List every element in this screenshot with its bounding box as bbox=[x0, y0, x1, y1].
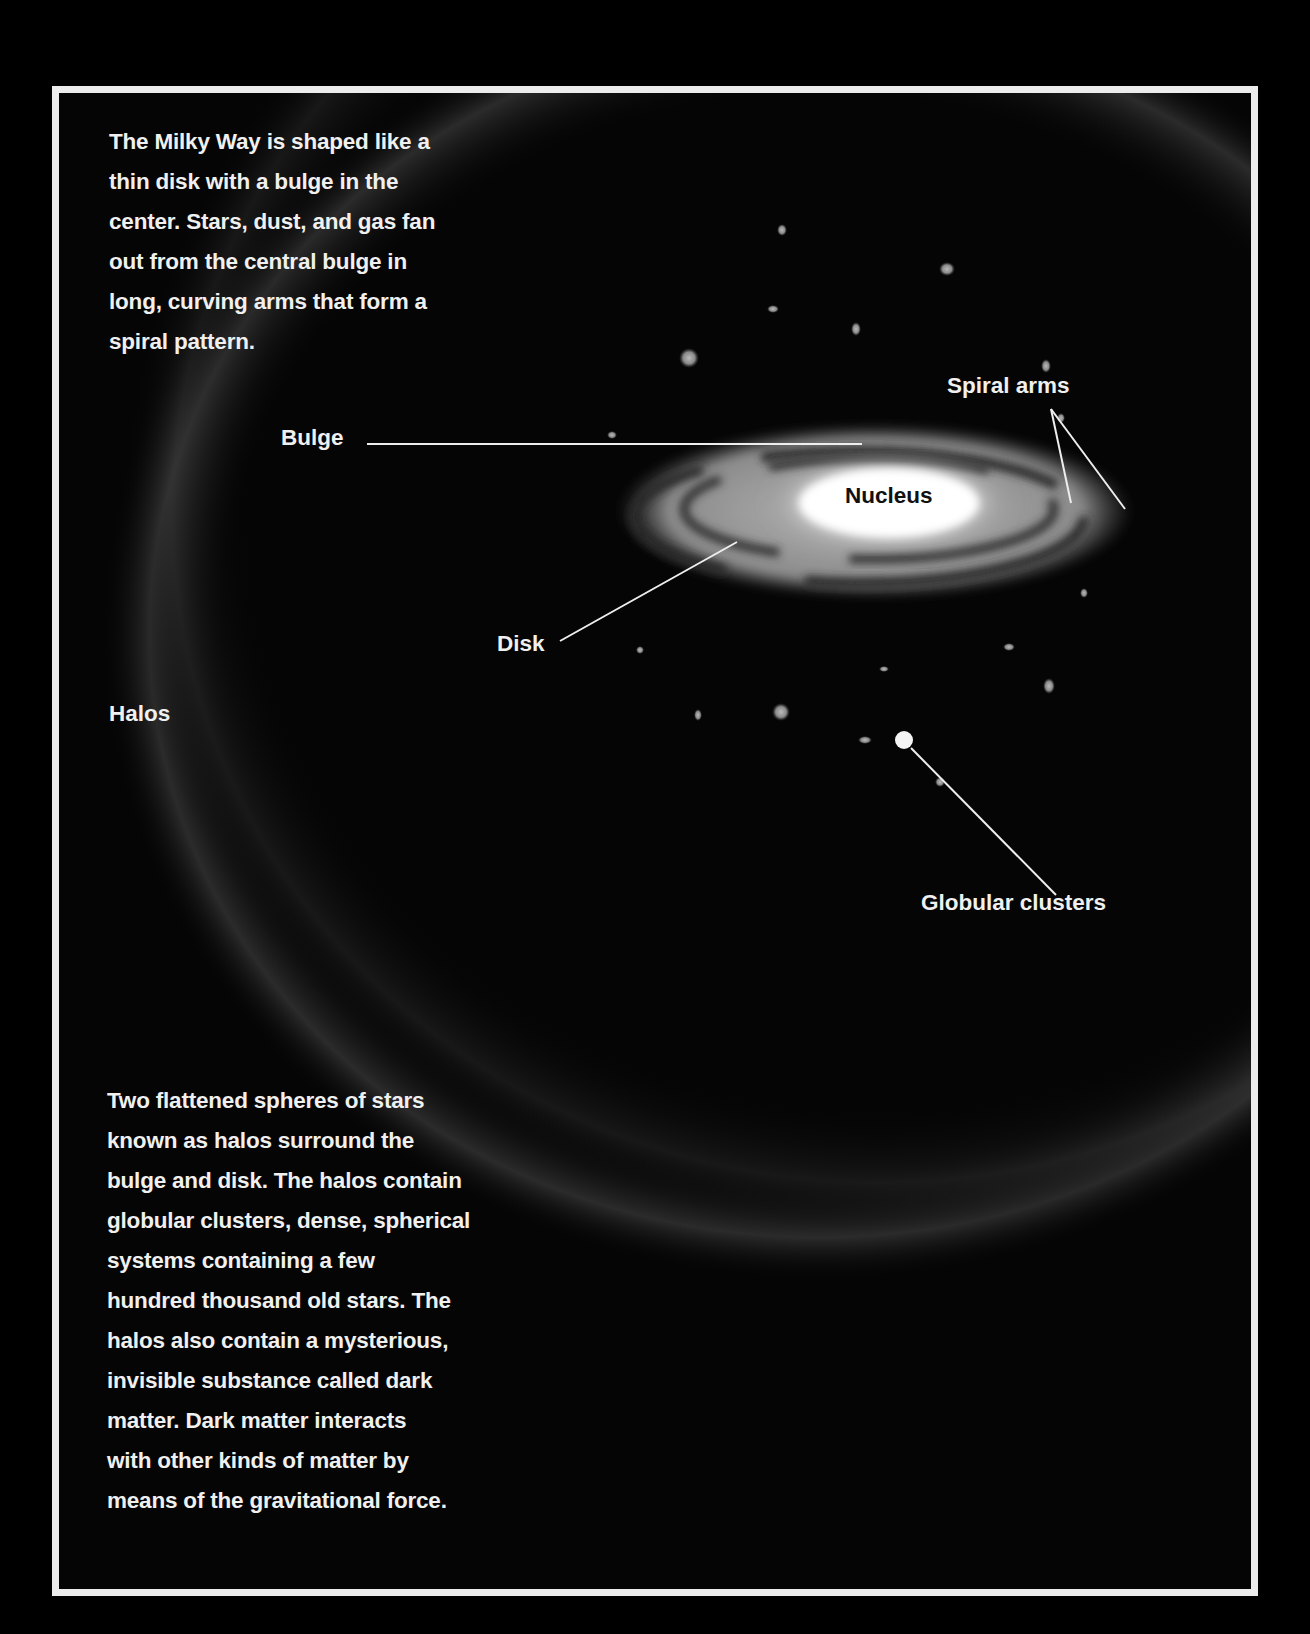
disk-label: Disk bbox=[497, 631, 545, 657]
bulge-label: Bulge bbox=[281, 425, 344, 451]
halos-label: Halos bbox=[109, 701, 170, 727]
globular-clusters-label: Globular clusters bbox=[921, 890, 1106, 916]
diagram-frame: The Milky Way is shaped like a thin disk… bbox=[52, 86, 1258, 1596]
nucleus-label: Nucleus bbox=[845, 483, 933, 509]
halo-paragraph: Two flattened spheres of stars known as … bbox=[107, 1081, 470, 1521]
galaxy-disk bbox=[617, 423, 1133, 599]
intro-paragraph: The Milky Way is shaped like a thin disk… bbox=[109, 122, 435, 362]
spiral-arms-label: Spiral arms bbox=[947, 373, 1070, 399]
